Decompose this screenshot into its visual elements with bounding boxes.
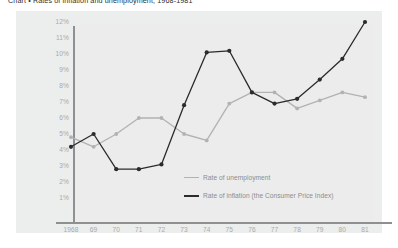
data-point: [295, 107, 299, 111]
data-point: [92, 145, 96, 149]
legend-label: Rate of inflation (the Consumer Price In…: [203, 192, 333, 199]
legend-swatch-icon: [184, 195, 199, 197]
legend-item[interactable]: Rate of inflation (the Consumer Price In…: [184, 189, 364, 202]
data-point: [92, 132, 96, 136]
data-point: [137, 167, 141, 171]
data-point: [295, 97, 299, 101]
data-point: [205, 139, 209, 143]
series-line: [71, 22, 365, 169]
chart-panel: 12%11%10%9%8%7%6%5%4%3%2%1% 196869707172…: [16, 11, 382, 233]
data-point: [340, 57, 344, 61]
data-point: [69, 135, 73, 139]
data-point: [250, 90, 254, 94]
legend-label: Rate of unemployment: [203, 174, 270, 181]
data-point: [340, 91, 344, 95]
caption-strip: Chart • Rates of inflation and unemploym…: [0, 0, 398, 9]
data-point: [114, 132, 118, 136]
data-point: [205, 50, 209, 54]
chart-legend: Rate of unemploymentRate of inflation (t…: [184, 171, 364, 207]
data-point: [182, 132, 186, 136]
caption-text: Chart • Rates of inflation and unemploym…: [8, 0, 193, 5]
series-inflation: [69, 20, 367, 171]
data-point: [182, 103, 186, 107]
data-point: [114, 167, 118, 171]
data-point: [227, 102, 231, 106]
legend-swatch-icon: [184, 177, 199, 179]
data-point: [160, 116, 164, 120]
data-point: [273, 91, 277, 95]
data-point: [318, 78, 322, 82]
data-point: [318, 99, 322, 103]
data-point: [363, 20, 367, 24]
chart-figure: Chart • Rates of inflation and unemploym…: [0, 0, 398, 248]
data-point: [363, 95, 367, 99]
data-point: [227, 49, 231, 53]
data-point: [272, 102, 276, 106]
series-unemployment: [69, 91, 367, 149]
legend-item[interactable]: Rate of unemployment: [184, 171, 364, 184]
data-point: [69, 145, 73, 149]
data-point: [137, 116, 141, 120]
data-point: [159, 162, 163, 166]
